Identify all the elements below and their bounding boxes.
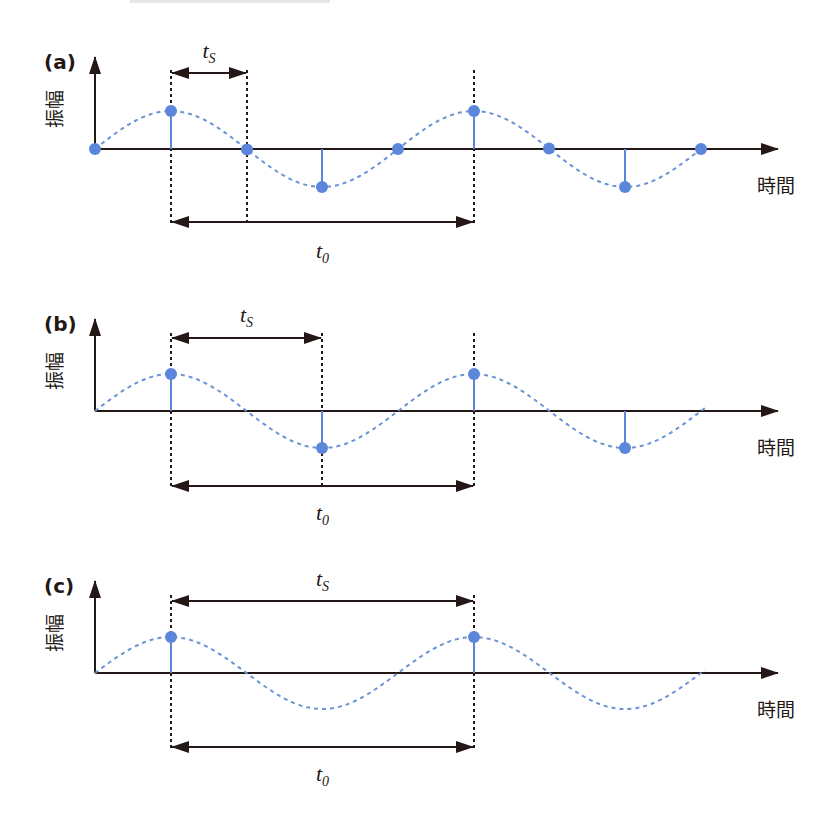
- sample-point: [468, 105, 480, 117]
- sample-point: [316, 442, 328, 454]
- t0-label: t0: [316, 500, 329, 528]
- ts-label-sub: S: [246, 315, 253, 330]
- sample-point: [619, 442, 631, 454]
- sample-point: [695, 143, 707, 155]
- panel-label: (b): [44, 312, 77, 336]
- sample-point: [619, 181, 631, 193]
- cropped-caption-strip: [130, 0, 330, 3]
- time-axis-label: 時間: [757, 437, 795, 459]
- sample-point: [468, 368, 480, 380]
- sample-point: [543, 143, 555, 155]
- t0-label: t0: [316, 238, 329, 266]
- panel-c: (c)振幅時間tSt0: [44, 566, 795, 789]
- sample-point: [165, 105, 177, 117]
- sample-point: [165, 631, 177, 643]
- ts-label-sub: S: [209, 51, 216, 66]
- sample-point: [89, 143, 101, 155]
- t0-label-sub: 0: [322, 251, 329, 266]
- sampling-figure-canvas: (a)振幅時間tSt0(b)振幅時間tSt0(c)振幅時間tSt0: [0, 0, 826, 813]
- t0-label-sub: 0: [322, 774, 329, 789]
- ts-label: tS: [240, 302, 253, 330]
- ts-label: tS: [316, 566, 329, 594]
- panel-label: (a): [44, 50, 76, 74]
- ts-label-sub: S: [322, 579, 329, 594]
- ts-label: tS: [202, 38, 215, 66]
- sampling-diagram: (a)振幅時間tSt0(b)振幅時間tSt0(c)振幅時間tSt0: [0, 0, 826, 813]
- panel-a: (a)振幅時間tSt0: [44, 38, 795, 266]
- t0-label-sub: 0: [322, 513, 329, 528]
- t0-label: t0: [316, 761, 329, 789]
- sample-point: [241, 143, 253, 155]
- amplitude-axis-label: 振幅: [44, 614, 66, 652]
- amplitude-axis-label: 振幅: [44, 90, 66, 128]
- time-axis-label: 時間: [757, 699, 795, 721]
- sample-point: [165, 368, 177, 380]
- amplitude-axis-label: 振幅: [44, 352, 66, 390]
- time-axis-label: 時間: [757, 175, 795, 197]
- sample-point: [316, 181, 328, 193]
- panel-b: (b)振幅時間tSt0: [44, 302, 795, 528]
- sample-point: [392, 143, 404, 155]
- sample-point: [468, 631, 480, 643]
- panel-label: (c): [44, 574, 74, 598]
